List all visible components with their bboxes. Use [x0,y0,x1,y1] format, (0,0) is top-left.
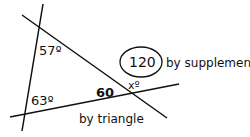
annotation-supplement: by supplement [166,56,250,70]
annotation-triangle: by triangle [79,112,144,126]
circled-value: 120 [129,54,156,70]
angle-label-x: xº [128,79,140,92]
angle-label-57: 57º [39,43,62,58]
triangle-diagram: 57º 63º 60 xº 120 by supplement by trian… [0,0,250,137]
angle-label-60: 60 [96,85,114,100]
angle-label-63: 63º [31,93,54,108]
